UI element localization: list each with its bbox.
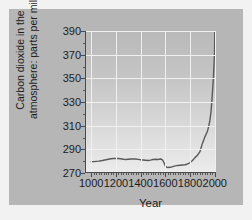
x-tick-minor <box>131 173 132 175</box>
x-tick-minor <box>151 173 152 175</box>
gridline-horizontal <box>85 149 216 150</box>
x-tick-minor <box>104 173 105 175</box>
x-axis-line <box>85 172 216 173</box>
x-tick-minor <box>158 173 159 175</box>
chart-figure: Carbon dioxide in the atmosphere: parts … <box>0 0 252 220</box>
x-tick-minor <box>108 173 109 175</box>
gridline-vertical <box>116 31 117 173</box>
x-tick-minor <box>175 173 176 175</box>
x-tick-minor <box>155 173 156 175</box>
x-tick-minor <box>96 173 97 175</box>
x-tick-minor <box>170 173 171 175</box>
gridline-vertical <box>91 31 92 173</box>
x-tick-minor <box>188 173 189 175</box>
x-tick-minor <box>123 173 124 175</box>
plot-area <box>85 31 216 173</box>
x-tick-minor <box>183 173 184 175</box>
x-tick-minor <box>207 173 208 175</box>
x-tick-minor <box>106 173 107 175</box>
x-tick-label: 1600 <box>153 178 177 189</box>
y-axis-title-line-2: atmosphere: parts per million <box>27 1 40 119</box>
x-tick-minor <box>148 173 149 175</box>
y-tick-label: 350 <box>63 73 81 84</box>
x-tick-minor <box>128 173 129 175</box>
x-tick-minor <box>168 173 169 175</box>
y-tick-major <box>81 173 85 174</box>
x-tick-minor <box>94 173 95 175</box>
gridline-horizontal <box>85 78 216 79</box>
x-tick-minor <box>185 173 186 175</box>
x-tick-label: 2000 <box>203 178 227 189</box>
x-tick-minor <box>133 173 134 175</box>
gridline-vertical <box>141 31 142 173</box>
x-tick-minor <box>101 173 102 175</box>
x-tick-minor <box>118 173 119 175</box>
x-tick-minor <box>193 173 194 175</box>
x-tick-minor <box>212 173 213 175</box>
x-tick-minor <box>200 173 201 175</box>
x-tick-label: 1800 <box>178 178 202 189</box>
line-series-atmospheric-co2 <box>91 31 215 168</box>
x-tick-minor <box>180 173 181 175</box>
x-tick-minor <box>113 173 114 175</box>
y-tick-label: 370 <box>63 50 81 61</box>
x-tick-label: 1200 <box>104 178 128 189</box>
gridline-horizontal <box>85 55 216 56</box>
x-tick-minor <box>210 173 211 175</box>
y-tick-labels: 270290310330350370390 <box>47 31 81 173</box>
x-tick-minor <box>160 173 161 175</box>
x-tick-minor <box>163 173 164 175</box>
x-tick-minor <box>138 173 139 175</box>
x-tick-minor <box>195 173 196 175</box>
x-tick-minor <box>153 173 154 175</box>
y-tick-label: 330 <box>63 97 81 108</box>
gridline-vertical <box>165 31 166 173</box>
x-tick-label: 1000 <box>79 178 103 189</box>
y-tick-label: 310 <box>63 121 81 132</box>
x-axis-title: Year <box>85 197 216 209</box>
gridline-vertical <box>215 31 216 173</box>
x-tick-minor <box>143 173 144 175</box>
y-tick-label: 290 <box>63 144 81 155</box>
gridline-horizontal <box>85 102 216 103</box>
x-tick-minor <box>178 173 179 175</box>
gridline-horizontal <box>85 126 216 127</box>
gridline-horizontal <box>85 31 216 32</box>
y-axis-title: Carbon dioxide in the atmosphere: parts … <box>14 1 44 119</box>
x-tick-minor <box>173 173 174 175</box>
x-tick-minor <box>136 173 137 175</box>
x-tick-minor <box>111 173 112 175</box>
x-tick-labels: 100012001400160018002000 <box>85 178 216 192</box>
x-tick-label: 1400 <box>128 178 152 189</box>
x-tick-minor <box>126 173 127 175</box>
x-tick-minor <box>205 173 206 175</box>
figure-panel: Carbon dioxide in the atmosphere: parts … <box>9 9 243 205</box>
x-tick-minor <box>202 173 203 175</box>
x-tick-minor <box>146 173 147 175</box>
x-tick-minor <box>197 173 198 175</box>
x-tick-minor <box>99 173 100 175</box>
x-tick-minor <box>121 173 122 175</box>
y-axis-line <box>85 31 86 173</box>
y-tick-label: 390 <box>63 26 81 37</box>
y-axis-title-line-1: Carbon dioxide in the <box>14 1 27 119</box>
gridline-vertical <box>190 31 191 173</box>
